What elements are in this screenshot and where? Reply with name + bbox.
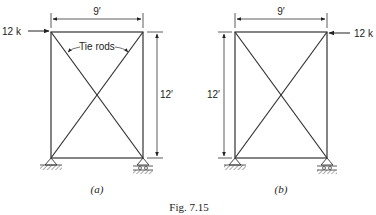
- roller-support-icon: [133, 158, 153, 174]
- panel-label-b: (b): [275, 183, 288, 196]
- panel-b: 9′ 12′ 12 k (b): [207, 6, 374, 196]
- pin-support-icon: [40, 158, 62, 170]
- figure-canvas: 9′ 12′ 12 k Tie rods (a): [0, 0, 376, 215]
- frame-b: [235, 32, 327, 158]
- height-label-b: 12′: [207, 89, 220, 100]
- panel-label-a: (a): [91, 183, 104, 196]
- figure-caption: Fig. 7.15: [169, 201, 209, 213]
- height-label-a: 12′: [160, 89, 173, 100]
- width-label-b: 9′: [277, 6, 285, 17]
- height-dimension-b: [218, 32, 232, 158]
- load-label-a: 12 k: [2, 26, 22, 37]
- pin-support-icon: [224, 158, 246, 170]
- tie-rods-label: Tie rods: [79, 41, 115, 52]
- tie-rods-leader: [115, 47, 128, 52]
- roller-support-icon: [317, 158, 337, 174]
- panel-a: 9′ 12′ 12 k Tie rods (a): [2, 6, 173, 196]
- load-label-b: 12 k: [354, 28, 374, 39]
- width-label-a: 9′: [93, 6, 101, 17]
